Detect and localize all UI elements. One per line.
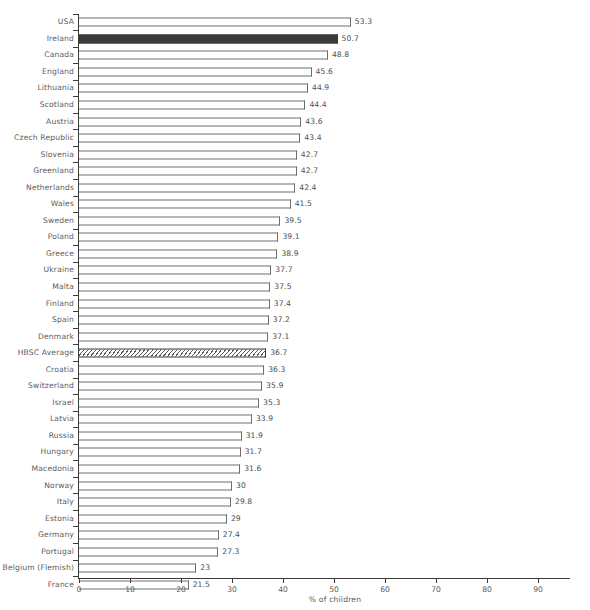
bar[interactable] [79,465,240,474]
bar-row[interactable]: Belgium (Flemish)23 [0,560,590,577]
bar[interactable] [79,316,269,325]
bar-value-label: 35.9 [266,383,283,391]
bar-row[interactable]: Croatia36.3 [0,361,590,378]
bar-value-label: 42.7 [301,151,318,159]
category-label: Ukraine [44,267,74,275]
bar-row[interactable]: Ukraine37.7 [0,262,590,279]
y-axis-tick [73,378,78,379]
bar-row[interactable]: Scotland44.4 [0,97,590,114]
category-label: Greece [46,250,74,258]
bar-value-label: 38.9 [281,250,298,258]
bar-row[interactable]: Ireland50.7 [0,31,590,48]
bar[interactable] [79,531,219,540]
category-label: Austria [46,118,74,126]
bar-row[interactable]: HBSC Average36.7 [0,345,590,362]
plot-area: USA53.3Ireland50.7Canada48.8England45.6L… [0,0,590,610]
y-axis-tick [73,361,78,362]
bar[interactable] [79,101,305,110]
bar-row[interactable]: Poland39.1 [0,229,590,246]
bar-row[interactable]: USA53.3 [0,14,590,31]
bar-value-label: 44.4 [309,101,326,109]
category-label: Israel [52,399,74,407]
bar-row[interactable]: Latvia33.9 [0,411,590,428]
bar-row[interactable]: Russia31.9 [0,428,590,445]
bar[interactable] [79,167,297,176]
bar-row[interactable]: Wales41.5 [0,196,590,213]
bar-value-label: 50.7 [342,35,359,43]
bar-row[interactable]: Hungary31.7 [0,444,590,461]
bar-row[interactable]: Sweden39.5 [0,213,590,230]
category-label: Czech Republic [14,134,74,142]
bar[interactable] [79,547,218,556]
bar[interactable] [79,183,295,192]
bar[interactable] [79,117,301,126]
bar[interactable] [79,249,277,258]
bar-row[interactable]: Norway30 [0,477,590,494]
bar-row[interactable]: Netherlands42.4 [0,179,590,196]
bar-row[interactable]: Israel35.3 [0,395,590,412]
bar-row[interactable]: Lithuania44.9 [0,80,590,97]
bar-row[interactable]: Spain37.2 [0,312,590,329]
bar-value-label: 43.4 [304,134,321,142]
bar[interactable] [79,134,300,143]
x-axis-tick [436,578,437,583]
bar[interactable] [79,233,278,242]
category-label: Russia [49,432,74,440]
bar-row[interactable]: Malta37.5 [0,279,590,296]
bar-row[interactable]: England45.6 [0,64,590,81]
bar-value-label: 23 [200,565,210,573]
bar[interactable] [79,84,308,93]
bar[interactable] [79,18,351,27]
bar-row[interactable]: Greece38.9 [0,246,590,263]
bar-value-label: 37.1 [272,333,289,341]
y-axis-tick [73,344,78,345]
bar-row[interactable]: Czech Republic43.4 [0,130,590,147]
bar[interactable] [79,514,227,523]
bar[interactable] [79,67,312,76]
bar[interactable] [79,365,264,374]
bar-row[interactable]: Greenland42.7 [0,163,590,180]
bar[interactable] [79,349,266,358]
bar[interactable] [79,200,291,209]
bar-row[interactable]: Finland37.4 [0,295,590,312]
bar-row[interactable]: Austria43.6 [0,113,590,130]
bar[interactable] [79,299,270,308]
bar-value-label: 31.7 [245,449,262,457]
bar[interactable] [79,564,196,573]
bar[interactable] [79,382,262,391]
x-axis-tick [79,578,80,583]
bar[interactable] [79,481,232,490]
bar-value-label: 36.3 [268,366,285,374]
bar-row[interactable]: Estonia29 [0,510,590,527]
bar[interactable] [79,398,259,407]
bar-row[interactable]: Slovenia42.7 [0,146,590,163]
y-axis-tick [73,560,78,561]
category-label: England [42,68,74,76]
bar-value-label: 45.6 [316,68,333,76]
bar[interactable] [79,216,280,225]
bar[interactable] [79,266,271,275]
bar[interactable] [79,332,268,341]
y-axis-tick [73,295,78,296]
bar[interactable] [79,283,270,292]
x-axis-tick [385,578,386,583]
bar-row[interactable]: Portugal27.3 [0,544,590,561]
bar[interactable] [79,448,241,457]
bar-row[interactable]: Canada48.8 [0,47,590,64]
bar-row[interactable]: Germany27.4 [0,527,590,544]
bar[interactable] [79,498,231,507]
bar[interactable] [79,150,297,159]
bar[interactable] [79,51,328,60]
bar-row[interactable]: Denmark37.1 [0,328,590,345]
bar[interactable] [79,415,252,424]
category-label: Slovenia [40,151,74,159]
bar-row[interactable]: Macedonia31.6 [0,461,590,478]
category-label: Croatia [46,366,74,374]
bar-row[interactable]: Switzerland35.9 [0,378,590,395]
bar-row[interactable]: Italy29.8 [0,494,590,511]
bar[interactable] [79,431,242,440]
category-label: Malta [52,283,74,291]
bar[interactable] [79,34,338,43]
y-axis-tick [73,245,78,246]
y-axis-tick [73,427,78,428]
